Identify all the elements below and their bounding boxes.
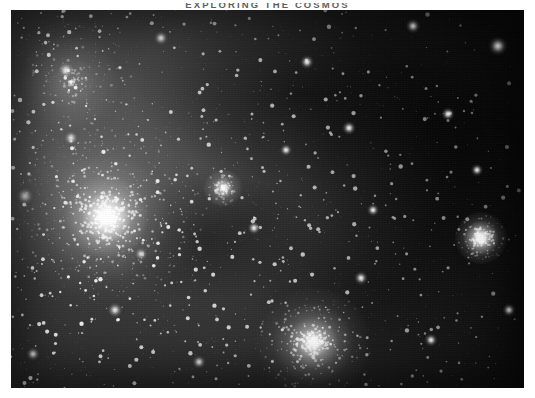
astronomy-photograph-plate xyxy=(11,10,524,388)
plate-vignette xyxy=(11,10,524,388)
page-margin-bottom xyxy=(0,388,535,398)
running-head-clip-mask xyxy=(0,0,535,3)
page-margin-right xyxy=(524,0,535,398)
plate-image-area xyxy=(11,10,524,388)
document-page: EXPLORING THE COSMOS xyxy=(0,0,535,398)
page-margin-left xyxy=(0,0,11,398)
